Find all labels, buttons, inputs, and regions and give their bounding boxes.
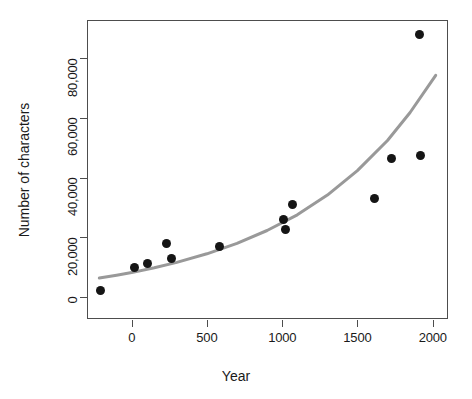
data-point bbox=[167, 254, 176, 263]
scatter-chart: 0500100015002000 020,00040,00060,00080,0… bbox=[0, 0, 472, 399]
y-axis-title: Number of characters bbox=[16, 70, 32, 270]
x-tick-2000 bbox=[433, 320, 434, 327]
x-tick-1000 bbox=[282, 320, 283, 327]
y-tick-label-wrap: 40,000 bbox=[0, 170, 74, 185]
data-point bbox=[215, 242, 224, 251]
data-point bbox=[416, 151, 425, 160]
x-tick-label-1500: 1500 bbox=[327, 330, 387, 345]
y-tick-label-wrap: 20,000 bbox=[0, 230, 74, 245]
y-tick-80000 bbox=[80, 58, 87, 59]
data-point bbox=[387, 154, 396, 163]
x-tick-0 bbox=[132, 320, 133, 327]
x-tick-label-2000: 2000 bbox=[403, 330, 463, 345]
y-tick-label-wrap: 80,000 bbox=[0, 51, 74, 66]
y-tick-40000 bbox=[80, 178, 87, 179]
data-point bbox=[279, 215, 288, 224]
data-point bbox=[96, 286, 105, 295]
x-tick-label-1000: 1000 bbox=[252, 330, 312, 345]
y-tick-20000 bbox=[80, 237, 87, 238]
data-point bbox=[162, 239, 171, 248]
plot-area bbox=[87, 20, 448, 319]
y-tick-0 bbox=[80, 297, 87, 298]
y-tick-60000 bbox=[80, 118, 87, 119]
x-tick-500 bbox=[207, 320, 208, 327]
y-tick-label-wrap: 0 bbox=[0, 289, 74, 304]
x-tick-label-0: 0 bbox=[102, 330, 162, 345]
y-tick-label-80000: 80,000 bbox=[65, 58, 80, 138]
data-point bbox=[288, 200, 297, 209]
y-tick-label-wrap: 60,000 bbox=[0, 110, 74, 125]
x-axis-title: Year bbox=[0, 368, 472, 384]
data-point bbox=[281, 225, 290, 234]
x-tick-1500 bbox=[357, 320, 358, 327]
x-tick-label-500: 500 bbox=[177, 330, 237, 345]
